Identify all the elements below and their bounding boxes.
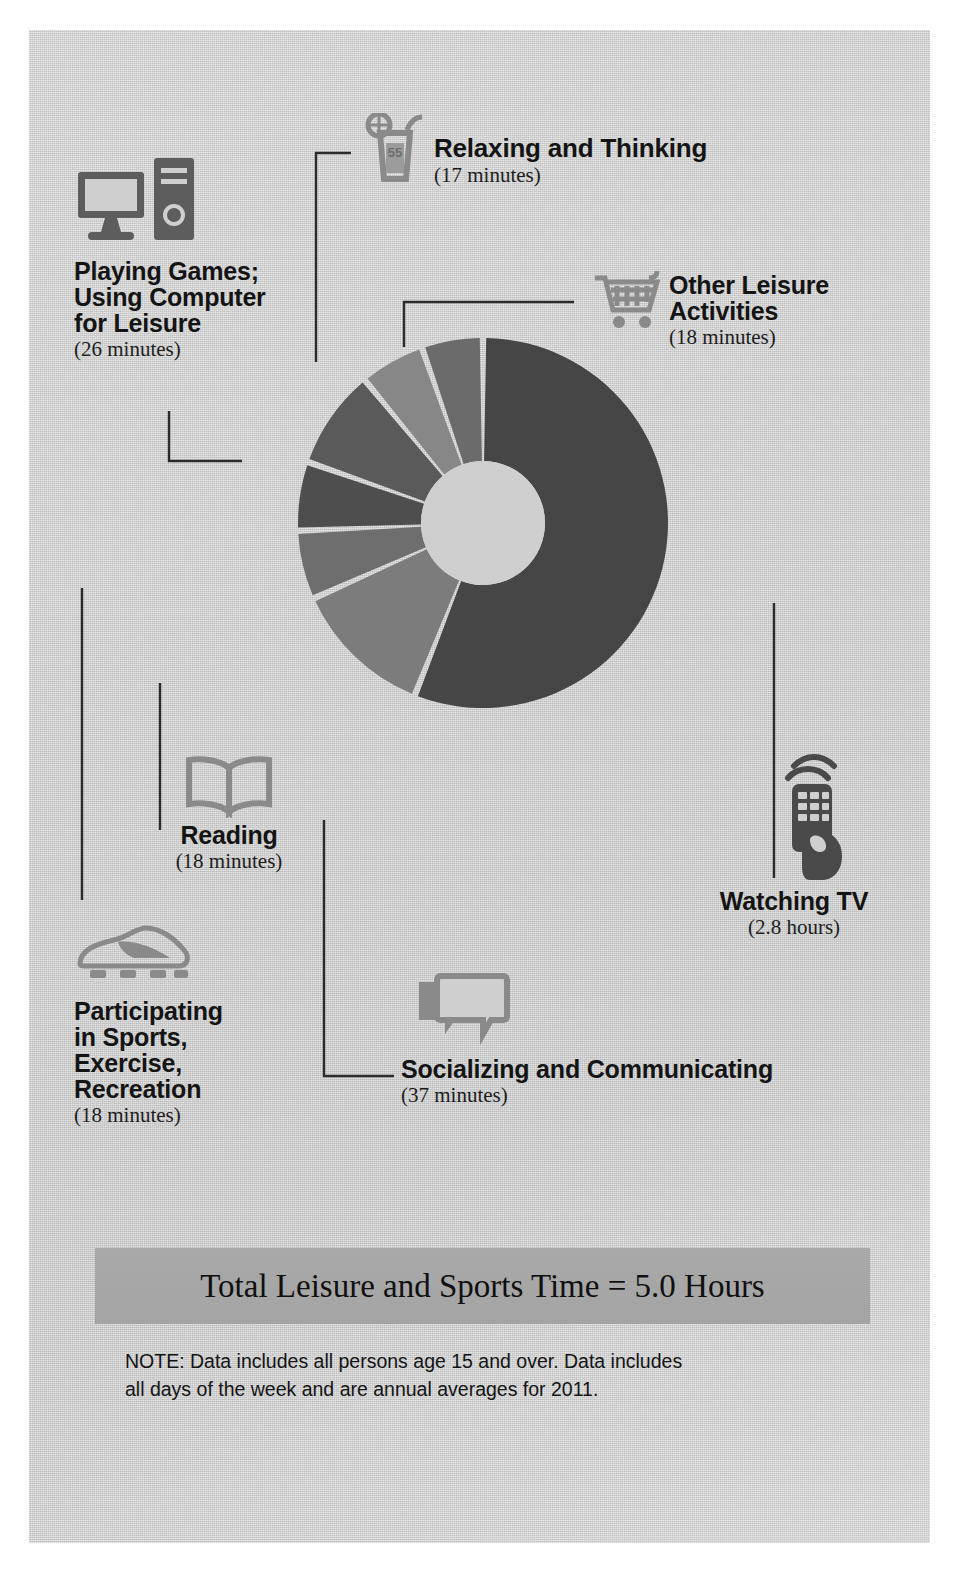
callout-other-leisure-title-line1: Other Leisure xyxy=(669,272,829,298)
callout-relaxing-value: (17 minutes) xyxy=(434,164,707,187)
callout-sports-value: (18 minutes) xyxy=(74,1104,223,1127)
svg-text:55: 55 xyxy=(388,145,402,160)
callout-relaxing-title: Relaxing and Thinking xyxy=(434,135,707,162)
callout-sports-title-line1: Participating xyxy=(74,998,223,1024)
callout-reading-title: Reading xyxy=(134,822,324,848)
callout-other-leisure-title-line2: Activities xyxy=(669,298,829,324)
leader-line-computer xyxy=(169,411,242,461)
shopping-cart-icon xyxy=(587,268,663,334)
speech-bubbles-icon xyxy=(415,972,773,1052)
note-line-2: all days of the week and are annual aver… xyxy=(125,1376,845,1404)
note-line-1: NOTE: Data includes all persons age 15 a… xyxy=(125,1348,845,1376)
sports-cleat-icon xyxy=(74,920,223,990)
drink-glass-icon: 55 xyxy=(364,113,426,189)
callout-computer-title-line1: Playing Games; xyxy=(74,258,266,284)
callout-relaxing: 55 Relaxing and Thinking (17 minutes) xyxy=(364,113,707,189)
total-time-banner: Total Leisure and Sports Time = 5.0 Hour… xyxy=(95,1248,870,1324)
callout-computer: Playing Games; Using Computer for Leisur… xyxy=(74,158,266,361)
note-block: NOTE: Data includes all persons age 15 a… xyxy=(125,1348,845,1403)
callout-sports-title-line2: in Sports, xyxy=(74,1024,223,1050)
callout-tv: Watching TV (2.8 hours) xyxy=(679,752,909,939)
open-book-icon xyxy=(183,752,275,822)
callout-sports-title-line4: Recreation xyxy=(74,1076,223,1102)
callout-tv-value: (2.8 hours) xyxy=(679,916,909,939)
leader-line-relaxing xyxy=(316,153,351,362)
callout-socializing: Socializing and Communicating (37 minute… xyxy=(401,972,773,1107)
callout-reading-value: (18 minutes) xyxy=(134,850,324,873)
leader-line-socializing xyxy=(324,820,394,1076)
callout-computer-title-line3: for Leisure xyxy=(74,310,266,336)
callout-socializing-value: (37 minutes) xyxy=(401,1084,773,1107)
infographic-poster: 55 Relaxing and Thinking (17 minutes) xyxy=(29,30,930,1543)
remote-control-hand-icon xyxy=(766,752,862,888)
callout-other-leisure: Other Leisure Activities (18 minutes) xyxy=(587,268,829,349)
callout-computer-title-line2: Using Computer xyxy=(74,284,266,310)
desktop-computer-icon xyxy=(76,158,266,248)
leader-line-other xyxy=(404,302,574,347)
callout-other-leisure-value: (18 minutes) xyxy=(669,326,829,349)
callout-computer-value: (26 minutes) xyxy=(74,338,266,361)
callout-tv-title: Watching TV xyxy=(679,888,909,914)
callout-sports: Participating in Sports, Exercise, Recre… xyxy=(74,920,223,1127)
callout-sports-title-line3: Exercise, xyxy=(74,1050,223,1076)
callout-socializing-title: Socializing and Communicating xyxy=(401,1056,773,1082)
total-time-text: Total Leisure and Sports Time = 5.0 Hour… xyxy=(95,1248,870,1324)
callout-reading: Reading (18 minutes) xyxy=(134,752,324,873)
